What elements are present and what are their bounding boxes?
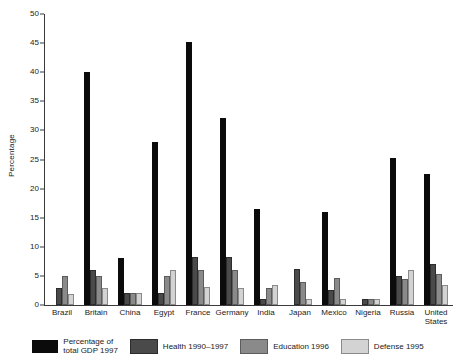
x-axis-tick-label: United States <box>419 308 453 326</box>
bar <box>238 288 244 305</box>
y-axis-tick-label: 30 <box>30 126 39 134</box>
bar <box>442 285 448 305</box>
legend-label: Education 1996 <box>273 342 329 351</box>
bar <box>408 270 414 305</box>
bar-group <box>79 14 113 305</box>
bar <box>136 293 142 305</box>
y-axis-tick-label: 35 <box>30 97 39 105</box>
legend-label: Defense 1995 <box>374 342 424 351</box>
legend-item[interactable]: Percentage of total GDP 1997 <box>32 337 118 355</box>
bar-group <box>283 14 317 305</box>
plot-area <box>45 14 453 305</box>
y-axis-tick-label: 5 <box>35 272 39 280</box>
bar <box>340 299 346 305</box>
y-axis-tick-label: 25 <box>30 156 39 164</box>
x-axis-line <box>44 305 453 306</box>
x-axis-tick-label: Nigeria <box>351 308 385 326</box>
bar-group <box>419 14 453 305</box>
x-axis-tick-label: Germany <box>215 308 249 326</box>
y-axis-title-text: Percentage <box>7 134 16 177</box>
x-axis-tick-label: China <box>113 308 147 326</box>
bar <box>152 142 158 305</box>
bar <box>254 209 260 305</box>
bar-group <box>147 14 181 305</box>
bar-chart-figure: Percentage 05101520253035404550 BrazilBr… <box>0 0 456 363</box>
legend-item[interactable]: Defense 1995 <box>341 339 424 354</box>
x-axis-labels: BrazilBritainChinaEgyptFranceGermanyIndi… <box>45 308 453 326</box>
y-axis-tick-label: 45 <box>30 39 39 47</box>
x-axis-tick-label: Russia <box>385 308 419 326</box>
legend-label: Health 1990–1997 <box>163 342 228 351</box>
y-axis-tick-label: 40 <box>30 68 39 76</box>
legend-label: Percentage of total GDP 1997 <box>63 337 118 355</box>
bar <box>272 285 278 305</box>
bar-group <box>385 14 419 305</box>
bar-group <box>249 14 283 305</box>
bar-group <box>181 14 215 305</box>
chart-legend: Percentage of total GDP 1997Health 1990–… <box>0 333 456 359</box>
y-axis-tick-label: 0 <box>35 301 39 309</box>
bar <box>68 294 74 305</box>
bar <box>374 299 380 305</box>
bar-group <box>45 14 79 305</box>
x-axis-tick-label: Britain <box>79 308 113 326</box>
x-axis-tick-label: France <box>181 308 215 326</box>
bar <box>306 299 312 305</box>
bar <box>170 270 176 306</box>
y-axis-tick-label: 15 <box>30 214 39 222</box>
y-axis-tick-label: 20 <box>30 185 39 193</box>
legend-swatch <box>130 339 158 354</box>
legend-item[interactable]: Health 1990–1997 <box>130 339 228 354</box>
bar-group <box>317 14 351 305</box>
legend-item[interactable]: Education 1996 <box>240 339 329 354</box>
bar <box>204 287 210 305</box>
x-axis-tick-label: Mexico <box>317 308 351 326</box>
x-axis-tick-label: India <box>249 308 283 326</box>
legend-swatch <box>240 339 268 354</box>
x-axis-tick-label: Brazil <box>45 308 79 326</box>
x-axis-tick-label: Japan <box>283 308 317 326</box>
bar-group <box>113 14 147 305</box>
y-axis-tick-label: 10 <box>30 243 39 251</box>
x-axis-tick-label: Egypt <box>147 308 181 326</box>
legend-swatch <box>32 340 58 353</box>
bar-group <box>215 14 249 305</box>
legend-swatch <box>341 339 369 354</box>
bar <box>102 288 108 305</box>
y-axis-tick-label: 50 <box>30 10 39 18</box>
bar-group <box>351 14 385 305</box>
y-axis-ticks: 05101520253035404550 <box>18 0 44 363</box>
